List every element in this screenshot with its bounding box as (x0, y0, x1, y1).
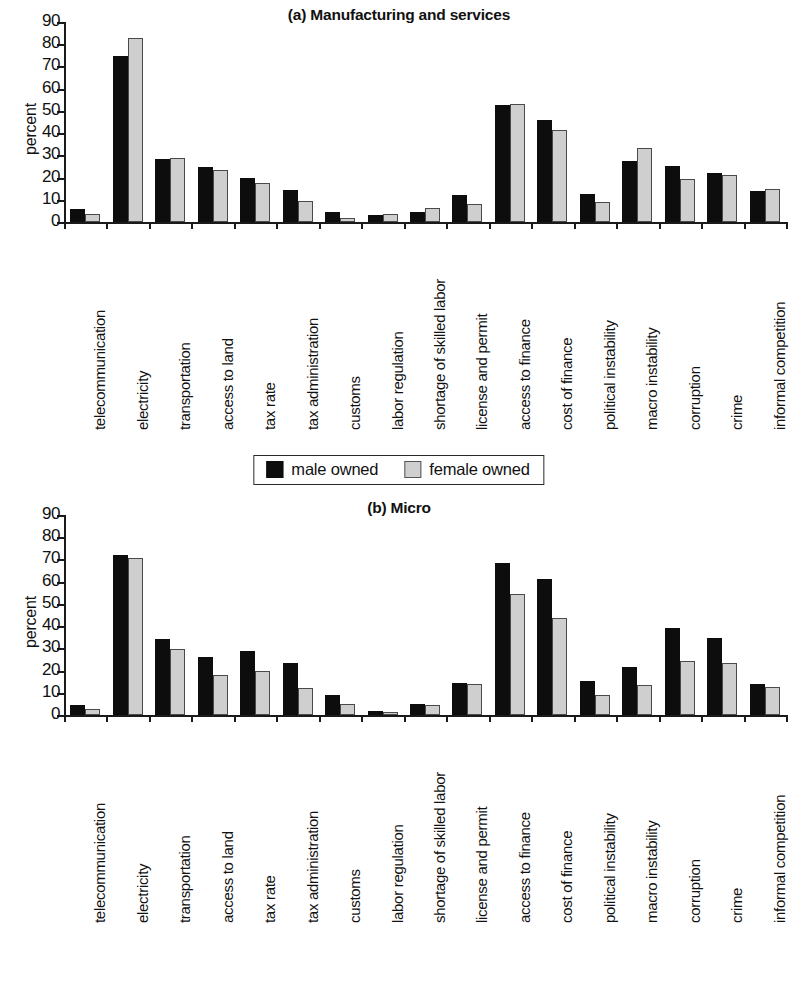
chart-a-x-axis (64, 222, 786, 224)
bar-male-owned (155, 159, 170, 222)
chart-a-x-labels: telecommunicationelectricitytransportati… (64, 228, 786, 438)
x-axis-category-label: labor regulation (389, 331, 406, 430)
bar-male-owned (580, 194, 595, 222)
x-axis-category-label: crime (728, 888, 745, 923)
bar-male-owned (325, 212, 340, 222)
bar-female-owned (85, 214, 100, 222)
bar-female-owned (170, 649, 185, 715)
x-axis-category-label: labor regulation (389, 824, 406, 923)
x-axis-category-label: informal competition (771, 302, 788, 430)
bar-female-owned (722, 663, 737, 715)
bar-female-owned (510, 594, 525, 715)
bar-female-owned (255, 183, 270, 222)
bar-female-owned (85, 709, 100, 715)
chart-b-x-axis (64, 715, 786, 717)
bar-male-owned (665, 628, 680, 715)
bar-female-owned (595, 202, 610, 222)
y-tick-label: 0 (51, 704, 60, 724)
bar-female-owned (637, 148, 652, 222)
x-axis-category-label: cost of finance (558, 831, 575, 923)
bar-female-owned (637, 685, 652, 715)
bar-male-owned (240, 651, 255, 715)
bar-male-owned (665, 166, 680, 222)
x-axis-category-label: crime (728, 395, 745, 430)
y-tick-label: 20 (42, 167, 60, 187)
bar-female-owned (552, 130, 567, 222)
x-axis-category-label: license and permit (473, 314, 490, 430)
bar-male-owned (580, 681, 595, 715)
x-axis-category-label: customs (346, 869, 363, 923)
y-tick-label: 50 (42, 593, 60, 613)
bar-female-owned (425, 208, 440, 222)
bar-male-owned (240, 178, 255, 222)
x-axis-category-label: transportation (176, 835, 193, 923)
bar-female-owned (722, 175, 737, 222)
bar-male-owned (113, 56, 128, 222)
bar-male-owned (452, 195, 467, 222)
x-axis-category-label: access to finance (516, 319, 533, 430)
legend-swatch-female-icon (404, 461, 421, 478)
x-tick-mark (786, 715, 788, 722)
bar-male-owned (622, 667, 637, 715)
y-tick-label: 70 (42, 548, 60, 568)
x-axis-category-label: macro instability (643, 821, 660, 923)
chart-b-x-labels: telecommunicationelectricitytransportati… (64, 721, 786, 931)
x-axis-category-label: political instability (601, 320, 618, 430)
bar-male-owned (707, 173, 722, 222)
bar-male-owned (198, 167, 213, 222)
bar-female-owned (340, 218, 355, 222)
y-tick-label: 40 (42, 615, 60, 635)
bar-female-owned (680, 179, 695, 222)
bar-male-owned (537, 579, 552, 715)
x-axis-category-label: telecommunication (91, 803, 108, 923)
bar-male-owned (410, 704, 425, 715)
x-axis-category-label: access to land (219, 831, 236, 923)
legend-label-male: male owned (291, 460, 378, 479)
bar-female-owned (213, 675, 228, 715)
x-axis-category-label: tax administration (304, 318, 321, 430)
chart-b-plot-area: 0102030405060708090 (64, 515, 786, 715)
y-tick-label: 60 (42, 571, 60, 591)
bar-male-owned (410, 212, 425, 222)
x-axis-category-label: shortage of skilled labor (431, 772, 448, 923)
bar-male-owned (495, 563, 510, 715)
legend-swatch-male-icon (266, 461, 283, 478)
x-axis-category-label: tax administration (304, 811, 321, 923)
bar-male-owned (155, 639, 170, 715)
bar-male-owned (537, 120, 552, 222)
y-tick-label: 10 (42, 189, 60, 209)
bar-male-owned (622, 161, 637, 222)
bar-male-owned (70, 705, 85, 715)
x-axis-category-label: electricity (134, 864, 151, 923)
bar-female-owned (255, 671, 270, 715)
legend-label-female: female owned (429, 460, 529, 479)
chart-panel-a: (a) Manufacturing and services percent 0… (0, 0, 798, 495)
bar-female-owned (213, 170, 228, 222)
bar-female-owned (765, 687, 780, 715)
bar-male-owned (113, 555, 128, 715)
x-axis-category-label: license and permit (473, 807, 490, 923)
y-tick-label: 30 (42, 637, 60, 657)
bar-male-owned (707, 638, 722, 715)
x-axis-category-label: customs (346, 376, 363, 430)
y-tick-label: 90 (42, 504, 60, 524)
bar-male-owned (198, 657, 213, 715)
y-tick-label: 40 (42, 122, 60, 142)
x-axis-category-label: electricity (134, 371, 151, 430)
bar-male-owned (283, 190, 298, 222)
bar-male-owned (368, 215, 383, 222)
bar-male-owned (452, 683, 467, 715)
chart-a-y-axis-title: percent (22, 103, 40, 155)
x-axis-category-label: access to finance (516, 812, 533, 923)
y-tick-label: 10 (42, 682, 60, 702)
legend-item-female: female owned (404, 460, 529, 479)
bar-female-owned (170, 158, 185, 222)
x-axis-category-label: transportation (176, 342, 193, 430)
bar-female-owned (128, 558, 143, 715)
x-tick-mark (786, 222, 788, 229)
bar-male-owned (368, 711, 383, 715)
bar-male-owned (70, 209, 85, 222)
bar-female-owned (425, 705, 440, 715)
y-tick-label: 80 (42, 33, 60, 53)
x-axis-category-label: tax rate (261, 875, 278, 923)
